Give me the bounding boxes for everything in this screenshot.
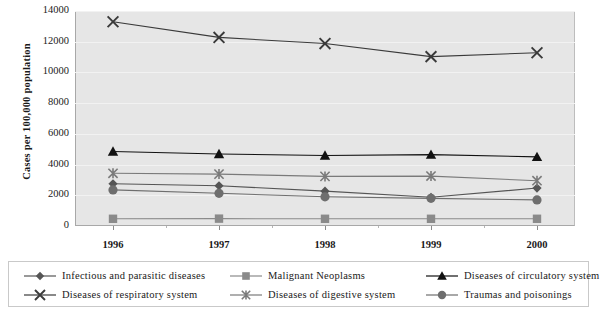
series-triangle <box>108 146 542 161</box>
data-point-square <box>321 215 329 223</box>
data-point-circle <box>320 192 329 201</box>
data-point-square <box>215 214 223 222</box>
series-x <box>108 16 543 62</box>
legend-label: Diseases of circulatory system <box>464 270 600 281</box>
legend-item[interactable]: Traumas and poisonings <box>425 289 600 301</box>
x-axis-minor-tick <box>166 226 167 228</box>
legend-marker-x-icon <box>23 289 57 301</box>
data-point-x <box>108 16 119 27</box>
legend-label: Malignant Neoplasms <box>268 270 365 281</box>
x-axis-tick <box>537 226 538 230</box>
x-axis-tick-label: 1998 <box>295 239 355 250</box>
legend-label: Infectious and parasitic diseases <box>62 270 205 281</box>
data-point-circle <box>532 195 541 204</box>
y-axis-tick-label: 8000 <box>11 96 69 107</box>
legend-item[interactable]: Diseases of circulatory system <box>425 270 600 282</box>
x-axis-tick <box>431 226 432 230</box>
x-axis-tick <box>113 226 114 230</box>
series-line <box>113 22 537 57</box>
x-axis-tick-label: 2000 <box>507 239 567 250</box>
chart-legend: Infectious and parasitic diseasesMaligna… <box>8 261 589 307</box>
data-point-square <box>109 215 117 223</box>
y-axis-tick-label: 12000 <box>11 35 69 46</box>
y-axis-title: Cases per 100,000 population <box>21 22 32 202</box>
legend-item[interactable]: Malignant Neoplasms <box>229 270 425 282</box>
y-axis-tick-label: 14000 <box>11 4 69 15</box>
y-axis-tick-label: 2000 <box>11 188 69 199</box>
x-axis-tick-label: 1996 <box>83 239 143 250</box>
legend-marker-asterisk-icon <box>229 289 263 301</box>
data-point-square <box>533 215 541 223</box>
data-point-circle <box>426 194 435 203</box>
legend-label: Diseases of digestive system <box>268 289 395 300</box>
y-axis-tick-label: 0 <box>11 219 69 230</box>
x-axis-tick-label: 1999 <box>401 239 461 250</box>
data-point-circle <box>438 290 446 298</box>
legend-label: Diseases of respiratory system <box>62 289 198 300</box>
legend-item[interactable]: Diseases of digestive system <box>229 289 425 301</box>
data-point-circle <box>108 185 117 194</box>
x-axis-minor-tick <box>378 226 379 228</box>
legend-item[interactable]: Diseases of respiratory system <box>23 289 229 301</box>
y-axis-tick-label: 6000 <box>11 127 69 138</box>
legend-label: Traumas and poisonings <box>464 289 572 300</box>
data-point-circle <box>214 189 223 198</box>
y-axis-tick-label: 10000 <box>11 65 69 76</box>
x-axis-minor-tick <box>272 226 273 228</box>
legend-marker-square-icon <box>229 270 263 282</box>
series-square <box>109 214 541 223</box>
legend-marker-circle-icon <box>425 289 459 301</box>
x-axis-minor-tick <box>484 226 485 228</box>
data-point-square <box>242 272 250 280</box>
y-axis-tick-label: 4000 <box>11 158 69 169</box>
legend-marker-diamond-icon <box>23 270 57 282</box>
x-axis-tick <box>325 226 326 230</box>
x-axis-tick <box>219 226 220 230</box>
x-axis-tick-label: 1997 <box>189 239 249 250</box>
data-series-layer <box>75 11 575 226</box>
series-asterisk <box>108 168 541 185</box>
plot-area: 02000400060008000100001200014000 1996199… <box>75 11 575 226</box>
data-point-square <box>427 215 435 223</box>
data-point-diamond <box>36 271 44 279</box>
data-point-triangle <box>108 146 118 155</box>
legend-marker-triangle-icon <box>425 270 459 282</box>
legend-item[interactable]: Infectious and parasitic diseases <box>23 270 229 282</box>
